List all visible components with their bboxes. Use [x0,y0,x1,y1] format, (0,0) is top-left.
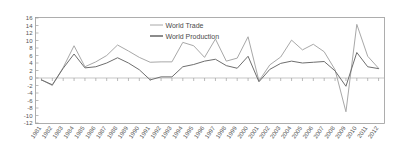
legend-label-world-production: World Production [166,33,220,40]
y-tick-label: -12 [24,120,33,126]
y-tick-label: -2 [27,83,33,89]
legend-label-world-trade: World Trade [166,22,204,29]
y-tick-label: -6 [27,98,33,104]
y-tick-label: 12 [26,30,33,36]
y-tick-label: 10 [26,38,33,44]
y-tick-label: -8 [27,105,33,111]
chart-container: 1614121086420-2-4-6-8-10-12 198119821983… [0,0,407,155]
line-chart: 1614121086420-2-4-6-8-10-12 198119821983… [0,0,407,155]
y-tick-label: -4 [27,90,33,96]
y-tick-label: 14 [26,23,33,29]
y-tick-label: -10 [24,113,33,119]
y-tick-label: 16 [26,15,33,21]
